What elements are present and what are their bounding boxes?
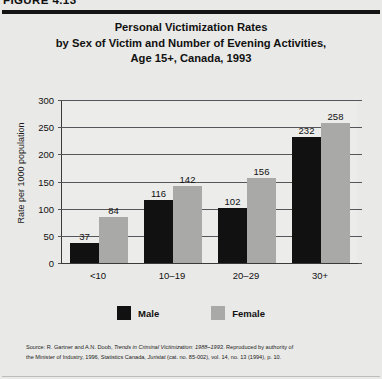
bar-female xyxy=(247,178,276,263)
source-note-line-1: Source: R. Gartner and A.N. Doob, Trends… xyxy=(26,343,366,353)
plot-area: 3784116142102156232258 xyxy=(61,100,357,263)
source-line2-prefix: the Minister of Industry, 1996, Statisti… xyxy=(26,354,147,360)
y-axis-tick-mark-right xyxy=(357,154,362,155)
y-axis-tick-mark xyxy=(58,209,62,210)
bar-female xyxy=(173,186,202,263)
source-note-line-2: the Minister of Industry, 1996, Statisti… xyxy=(26,353,366,363)
y-axis-tick-label: 0 xyxy=(24,259,54,269)
x-axis-category-label: <10 xyxy=(61,270,135,281)
bar-male xyxy=(144,200,173,263)
source-line1-italic: Trends in Criminal Victimization: 1988–1… xyxy=(114,344,223,350)
y-axis-tick-mark-right xyxy=(357,127,362,128)
chart-title-line-2: by Sex of Victim and Number of Evening A… xyxy=(0,36,382,52)
y-axis-tick-mark xyxy=(58,127,62,128)
y-axis-tick-label: 200 xyxy=(24,150,54,160)
figure-number-label: FIGURE 4.13 xyxy=(3,0,76,6)
bar-female xyxy=(321,123,350,263)
y-axis-tick-label: 150 xyxy=(24,178,54,188)
legend-label: Male xyxy=(138,308,159,319)
source-line1-prefix: Source: R. Gartner and A.N. Doob, xyxy=(26,344,114,350)
bar-value-label: 156 xyxy=(241,167,282,177)
bar-male xyxy=(218,208,247,263)
legend-item-female: Female xyxy=(211,306,265,320)
y-axis-tick-mark xyxy=(58,100,62,101)
legend-item-male: Male xyxy=(117,306,159,320)
bar-male xyxy=(292,137,321,263)
source-line2-italic: Juristat xyxy=(147,354,165,360)
bar-value-label: 258 xyxy=(315,112,356,122)
chart-title-line-1: Personal Victimization Rates xyxy=(0,20,382,36)
x-axis-line xyxy=(61,263,358,264)
source-note: Source: R. Gartner and A.N. Doob, Trends… xyxy=(26,343,366,362)
y-axis-tick-label: 250 xyxy=(24,123,54,133)
y-axis-tick-mark-right xyxy=(357,236,362,237)
gray-swatch xyxy=(211,306,225,320)
header-divider-rule xyxy=(2,10,380,14)
y-axis-tick-mark-right xyxy=(357,209,362,210)
bar-male xyxy=(70,243,99,263)
bar-value-label: 142 xyxy=(167,175,208,185)
x-axis-category-label: 30+ xyxy=(283,270,357,281)
y-axis-tick-mark xyxy=(58,236,62,237)
source-line2-suffix: (cat. no. 85-002), vol. 14, no. 13 (1994… xyxy=(166,354,282,360)
y-axis-tick-mark xyxy=(58,154,62,155)
y-axis-tick-mark-right xyxy=(357,182,362,183)
chart-title: Personal Victimization Rates by Sex of V… xyxy=(0,20,382,67)
source-line1-suffix: . Reproduced by authority of xyxy=(223,344,293,350)
y-axis-tick-mark xyxy=(58,182,62,183)
y-axis-tick-label: 300 xyxy=(24,96,54,106)
legend-label: Female xyxy=(232,308,265,319)
chart-title-line-3: Age 15+, Canada, 1993 xyxy=(0,51,382,67)
chart-plot-wrapper: Rate per 1000 population 050100150200250… xyxy=(0,96,382,286)
y-axis-tick-label: 100 xyxy=(24,205,54,215)
figure-header: FIGURE 4.13 xyxy=(0,0,382,16)
black-swatch xyxy=(117,306,131,320)
gridline xyxy=(62,100,357,101)
bar-value-label: 84 xyxy=(93,206,134,216)
x-axis-category-label: 10–19 xyxy=(135,270,209,281)
page-bottom-rule xyxy=(2,376,380,377)
chart-legend: MaleFemale xyxy=(0,306,382,320)
y-axis-tick-mark-right xyxy=(357,100,362,101)
x-axis-category-label: 20–29 xyxy=(209,270,283,281)
bar-female xyxy=(99,217,128,263)
y-axis-tick-label: 50 xyxy=(24,232,54,242)
